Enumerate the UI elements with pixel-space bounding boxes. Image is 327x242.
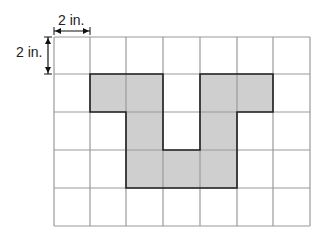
- shaded-cell: [163, 150, 200, 188]
- vertical-dimension-arrow: [44, 37, 52, 74]
- shaded-cell: [200, 150, 237, 188]
- shaded-region: [90, 74, 273, 188]
- shaded-cell: [237, 74, 273, 112]
- shaded-cell: [90, 74, 126, 112]
- grid-lines: [54, 37, 310, 226]
- shaded-cell: [126, 74, 163, 112]
- shaded-cell: [200, 74, 237, 112]
- grid-figure: [0, 0, 327, 242]
- shaded-cell: [200, 112, 237, 150]
- shaded-cell: [126, 150, 163, 188]
- shaded-cell: [126, 112, 163, 150]
- horizontal-dimension-arrow: [54, 27, 90, 35]
